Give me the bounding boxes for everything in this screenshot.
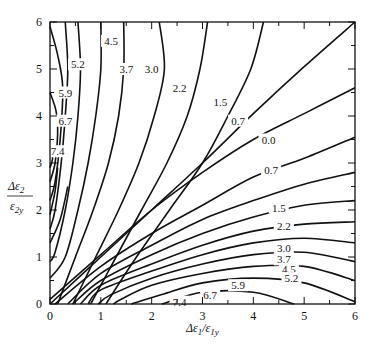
x-tick-label: 0	[47, 309, 53, 323]
y-tick-label: 3	[36, 156, 42, 170]
contour-lines	[50, 22, 355, 304]
contour-label-upper-5.2: 5.2	[71, 58, 85, 70]
x-tick-label: 2	[149, 309, 155, 323]
contour-label-upper-1.5: 1.5	[213, 96, 227, 108]
contour-label-upper-5.9: 5.9	[58, 87, 72, 99]
contour-label-upper-3.7: 3.7	[119, 63, 133, 75]
contour-label-upper-3.0: 3.0	[145, 63, 159, 75]
x-axis-label: Δε1/ε1y	[185, 321, 219, 337]
svg-text:Δε1/ε1y: Δε1/ε1y	[185, 321, 219, 337]
contour-label-lower-0.7: 0.7	[264, 164, 278, 176]
contour-label-lower-3.0: 3.0	[277, 242, 291, 254]
svg-text:Δε2: Δε2	[7, 179, 25, 195]
y-tick-label: 0	[36, 297, 42, 311]
x-tick-label: 5	[301, 309, 307, 323]
y-axis-label: Δε2 ε2y	[7, 179, 33, 215]
contour-line-lower-5.2	[98, 252, 355, 304]
contour-chart: 4.55.25.96.77.43.73.02.21.50.70.00.71.52…	[0, 0, 375, 348]
x-tick-label: 1	[98, 309, 104, 323]
contour-label-lower-1.5: 1.5	[272, 202, 286, 214]
contour-label-lower-6.7: 6.7	[203, 289, 217, 301]
contour-label-lower-7.4: 7.4	[173, 296, 187, 308]
contour-label-upper-0.0: 0.0	[262, 134, 276, 146]
x-tick-label: 4	[250, 309, 256, 323]
y-tick-label: 1	[36, 250, 42, 264]
contour-line-lower-1.5	[55, 137, 355, 304]
svg-text:ε2y: ε2y	[10, 199, 23, 215]
contour-label-upper-7.4: 7.4	[51, 145, 65, 157]
contour-labels: 4.55.25.96.77.43.73.02.21.50.70.00.71.52…	[48, 35, 302, 308]
contour-line-upper-0.0	[50, 22, 355, 304]
contour-label-upper-2.2: 2.2	[173, 82, 187, 94]
x-tick-label: 6	[352, 309, 358, 323]
y-tick-label: 2	[36, 203, 42, 217]
y-tick-label: 6	[36, 15, 42, 29]
y-tick-label: 4	[36, 109, 42, 123]
contour-label-upper-4.5: 4.5	[104, 35, 118, 47]
contour-label-lower-5.9: 5.9	[231, 279, 245, 291]
contour-label-lower-2.2: 2.2	[277, 220, 291, 232]
contour-label-lower-5.2: 5.2	[285, 272, 299, 284]
contour-label-upper-0.7: 0.7	[231, 115, 245, 127]
contour-label-upper-6.7: 6.7	[58, 115, 72, 127]
contour-line-extra-1	[50, 168, 58, 215]
y-tick-label: 5	[36, 62, 42, 76]
